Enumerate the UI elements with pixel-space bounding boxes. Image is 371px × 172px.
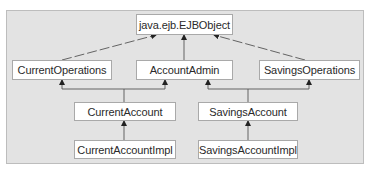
node-current-account-impl: CurrentAccountImpl [74,140,176,159]
node-account-admin: AccountAdmin [136,60,233,80]
node-savings-account: SavingsAccount [198,102,298,121]
edge-currentoperations-ejbobject [62,35,156,60]
node-current-account: CurrentAccount [74,102,176,121]
node-current-operations: CurrentOperations [12,60,112,80]
edge-savingsoperations-ejbobject [214,35,305,60]
node-savings-operations: SavingsOperations [259,60,360,80]
node-savings-account-impl: SavingsAccountImpl [198,140,298,159]
node-ejbobject: java.ejb.EJBObject [136,14,233,35]
